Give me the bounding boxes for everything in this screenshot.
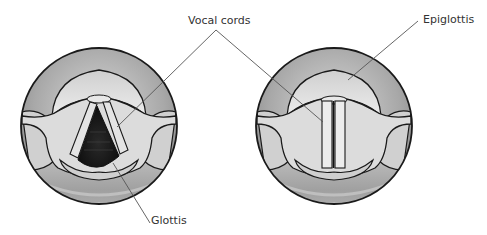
- vocal-cord-left: [322, 101, 332, 168]
- label-vocal-cords: Vocal cords: [188, 14, 251, 27]
- label-epiglottis: Epiglottis: [423, 13, 474, 26]
- larynx-open-view: [9, 48, 189, 230]
- label-glottis: Glottis: [151, 214, 187, 227]
- larynx-diagram: [0, 0, 487, 235]
- larynx-closed-view: [244, 48, 424, 230]
- vocal-cord-right: [335, 101, 345, 168]
